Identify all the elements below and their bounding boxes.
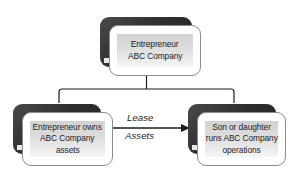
node-entrepreneur-abc-company[interactable]: Entrepreneur ABC Company [100,17,192,67]
node-label-line: runs ABC Company [205,133,277,145]
node-label-line: Entrepreneur [131,39,179,51]
node-card: Entrepreneur owns ABC Company assets [22,112,113,166]
edge-label-lease: Lease [127,112,153,123]
node-label-line: ABC Company [128,51,182,63]
node-label-line: Entrepreneur owns [33,122,102,134]
node-text-panel: Entrepreneur owns ABC Company assets [30,121,105,157]
node-label-line: assets [56,145,80,157]
node-label-line: operations [222,145,260,157]
node-text-panel: Son or daughter runs ABC Company operati… [205,121,278,157]
node-label-line: Son or daughter [212,122,271,134]
node-entrepreneur-owns-assets[interactable]: Entrepreneur owns ABC Company assets [13,104,101,154]
connector-horizontal-bar [59,89,234,103]
node-card: Entrepreneur ABC Company [109,25,201,76]
diagram-canvas: Entrepreneur ABC Company Entrepreneur ow… [0,0,294,183]
node-text-panel: Entrepreneur ABC Company [117,34,193,67]
node-card: Son or daughter runs ABC Company operati… [197,112,286,166]
edge-label-assets: Assets [125,130,154,141]
node-label-line: ABC Company [40,133,94,145]
node-son-or-daughter-runs-operations[interactable]: Son or daughter runs ABC Company operati… [188,104,276,154]
